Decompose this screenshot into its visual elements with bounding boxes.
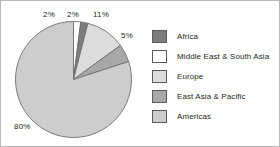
legend-label-africa: Africa [177, 32, 198, 41]
legend-item-middle-east-south-asia: Middle East & South Asia [152, 47, 278, 66]
legend-item-africa: Africa [152, 27, 278, 46]
chart-legend: Africa Middle East & South Asia Europe E… [152, 27, 278, 127]
legend-label-europe: Europe [177, 72, 203, 81]
slice-value-label-middle-east: 2% [43, 10, 55, 19]
pie-slice-group [15, 21, 131, 137]
legend-item-europe: Europe [152, 67, 278, 86]
legend-swatch-east-asia-pacific [152, 90, 167, 103]
legend-label-americas: Americas [177, 112, 211, 121]
slice-value-label-americas: 80% [14, 122, 31, 131]
slice-value-label-africa: 2% [67, 10, 79, 19]
pie-chart-plot-area: 2% 2% 11% 5% 80% [1, 1, 147, 147]
slice-value-label-europe: 11% [93, 10, 109, 19]
legend-label-east-asia-pacific: East Asia & Pacific [177, 92, 246, 101]
slice-value-label-east-asia: 5% [121, 31, 133, 40]
legend-swatch-africa [152, 30, 167, 43]
legend-swatch-middle-east-south-asia [152, 50, 167, 63]
pie-chart-svg [14, 20, 133, 139]
legend-item-east-asia-pacific: East Asia & Pacific [152, 87, 278, 106]
legend-swatch-europe [152, 70, 167, 83]
legend-label-middle-east-south-asia: Middle East & South Asia [177, 52, 269, 61]
legend-swatch-americas [152, 110, 167, 123]
legend-item-americas: Americas [152, 107, 278, 126]
pie-chart-figure: 2% 2% 11% 5% 80% Africa Middle East & So… [0, 0, 280, 147]
